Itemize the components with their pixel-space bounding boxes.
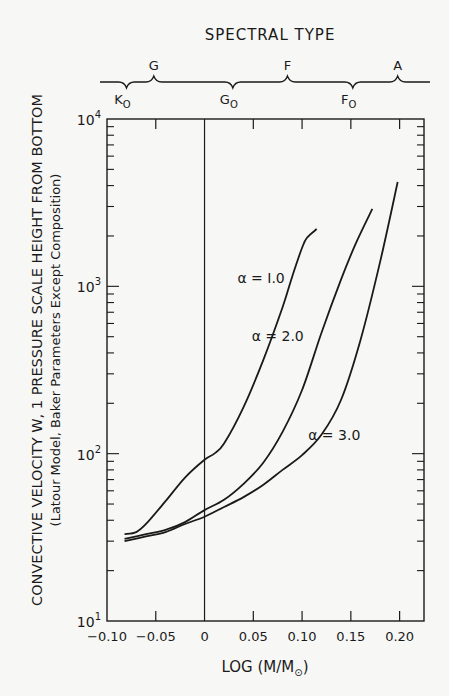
y-axis-label: CONVECTIVE VELOCITY W, 1 PRESSURE SCALE … (29, 94, 45, 606)
x-tick-label: 0 (200, 629, 208, 644)
spectral-label: A (393, 58, 402, 73)
series-curve-2 (125, 209, 373, 539)
spectral-label: G (149, 58, 159, 73)
spectral-type-axis: SPECTRAL TYPEGFAKOGOFO (100, 26, 430, 110)
spectral-label: F (284, 58, 291, 73)
series-label: α = 2.0 (252, 328, 304, 344)
x-tick-label: 0.15 (336, 629, 365, 644)
spectral-brace-line (100, 76, 430, 88)
series-label: α = I.0 (237, 270, 284, 286)
spectral-label: GO (220, 92, 238, 110)
x-tick-label: −0.10 (87, 629, 127, 644)
x-tick-label: 0.05 (239, 629, 268, 644)
y-axis-sublabel: (Latour Model, Baker Parameters Except C… (48, 174, 63, 527)
y-tick-label: 101 (77, 611, 101, 630)
axis-labels: LOG (M/M⊙)CONVECTIVE VELOCITY W, 1 PRESS… (29, 94, 309, 678)
spectral-label: FO (341, 92, 356, 110)
plot-frame: −0.10−0.0500.050.100.150.20101102103104 (77, 109, 424, 644)
y-tick-label: 103 (77, 276, 101, 295)
x-tick-label: 0.20 (385, 629, 414, 644)
y-tick-label: 104 (77, 109, 101, 128)
series-curve-1 (125, 229, 317, 534)
top-axis-title: SPECTRAL TYPE (205, 26, 336, 44)
chart-canvas: SPECTRAL TYPEGFAKOGOFO −0.10−0.0500.050.… (0, 0, 449, 696)
x-tick-label: −0.05 (136, 629, 176, 644)
spectral-label: KO (114, 92, 131, 110)
series-label: α = 3.0 (308, 427, 360, 443)
series-curve-3 (125, 182, 398, 541)
plot-border (107, 119, 424, 621)
x-axis-label: LOG (M/M⊙) (221, 658, 308, 678)
x-tick-label: 0.10 (288, 629, 317, 644)
y-tick-label: 102 (77, 444, 101, 463)
plot-curves: α = I.0α = 2.0α = 3.0 (125, 182, 398, 541)
